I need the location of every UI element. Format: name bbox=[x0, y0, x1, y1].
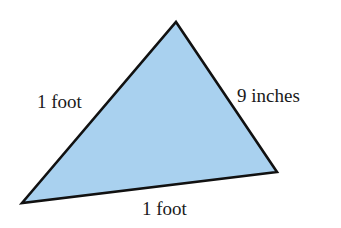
left-side-label: 1 foot bbox=[37, 92, 82, 111]
bottom-side-label: 1 foot bbox=[142, 199, 187, 218]
triangle-diagram: 1 foot 9 inches 1 foot bbox=[0, 0, 341, 228]
right-side-label: 9 inches bbox=[237, 86, 300, 105]
triangle-shape bbox=[0, 0, 341, 228]
